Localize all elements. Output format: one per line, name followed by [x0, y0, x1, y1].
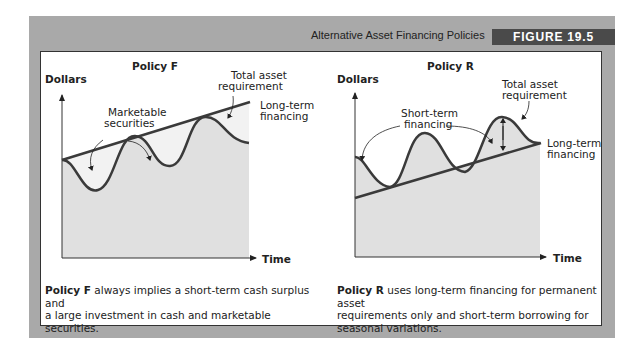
policy-f-marketable-label-2: securities — [104, 117, 155, 129]
policy-f-caption: Policy F always implies a short-term cas… — [45, 284, 325, 334]
policy-r-short-term-label-2: financing — [404, 118, 452, 130]
policy-r-x-axis-label: Time — [553, 252, 582, 264]
policy-f-long-term-label-2: financing — [260, 110, 308, 122]
policy-f-chart — [62, 95, 256, 258]
policy-r-y-axis-label: Dollars — [337, 73, 379, 85]
policy-f-x-axis-label: Time — [262, 253, 291, 265]
policy-f-total-asset-label-2: requirement — [218, 80, 283, 92]
policy-r-title: Policy R — [427, 60, 474, 72]
policy-f-y-axis-label: Dollars — [45, 73, 87, 85]
policy-r-long-term-label-2: financing — [547, 148, 595, 160]
policy-r-total-asset-label-2: requirement — [502, 89, 567, 101]
policy-f-title: Policy F — [132, 60, 178, 72]
policy-r-caption: Policy R uses long-term financing for pe… — [337, 284, 602, 334]
